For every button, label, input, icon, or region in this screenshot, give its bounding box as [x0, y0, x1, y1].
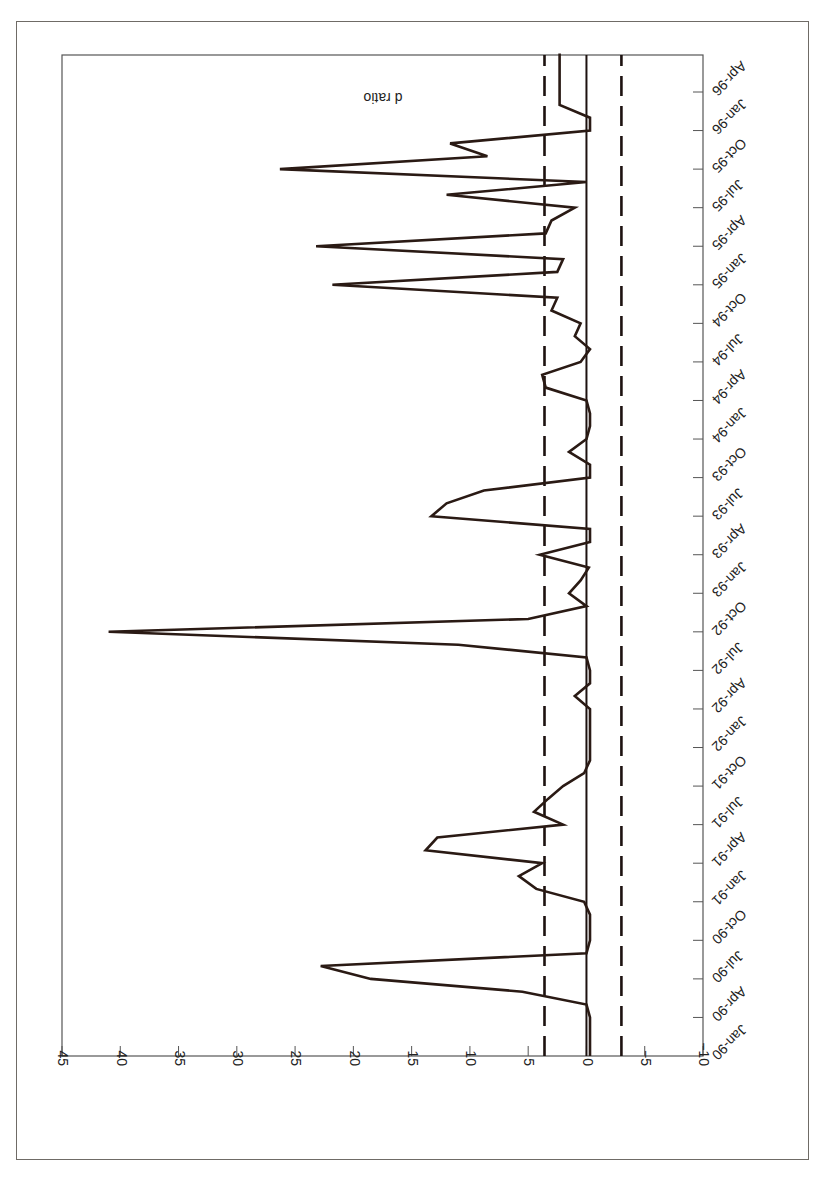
date-tick-label: Oct-93 [709, 444, 750, 485]
value-tick-label: 45 [55, 1050, 71, 1066]
date-tick-label: Apr-94 [709, 367, 750, 408]
date-tick-label: Apr-93 [709, 521, 750, 562]
value-tick-label: 20 [347, 1050, 363, 1066]
date-tick-label: Jul-95 [709, 177, 747, 215]
date-tick-label: Jan-93 [709, 559, 751, 601]
date-tick-label: Apr-92 [709, 675, 750, 716]
date-tick-label: Jan-96 [709, 96, 751, 138]
y-axis-title: d ratio [363, 90, 402, 106]
value-axis: 454035302520151050−5−10 [55, 1042, 712, 1066]
value-tick-label: 35 [172, 1050, 188, 1066]
date-tick-label: Jul-94 [709, 331, 747, 369]
date-tick-label: Jan-92 [709, 713, 751, 755]
d-ratio-line-chart: 454035302520151050−5−10 Jan-90Apr-90Jul-… [0, 0, 817, 1183]
date-tick-label: Jul-90 [709, 948, 747, 986]
date-tick-label: Apr-96 [709, 58, 750, 99]
plot-area [62, 55, 703, 1056]
date-tick-label: Jan-90 [709, 1022, 751, 1064]
date-tick-label: Jul-92 [709, 639, 747, 677]
date-tick-label: Oct-94 [709, 290, 750, 331]
date-axis: Jan-90Apr-90Jul-90Oct-90Jan-91Apr-91Jul-… [693, 58, 750, 1063]
value-tick-label: 15 [405, 1050, 421, 1066]
date-tick-label: Apr-91 [709, 829, 750, 870]
value-tick-label: −10 [696, 1042, 712, 1066]
date-tick-label: Jan-95 [709, 250, 751, 292]
date-tick-label: Apr-90 [709, 984, 750, 1025]
d-ratio-series-line [109, 53, 590, 1056]
date-tick-label: Jul-91 [709, 794, 747, 832]
date-tick-label: Jan-91 [709, 867, 751, 909]
value-tick-label: 0 [580, 1058, 596, 1066]
value-tick-label: 10 [463, 1050, 479, 1066]
value-tick-label: 40 [114, 1050, 130, 1066]
date-tick-label: Oct-95 [709, 135, 750, 176]
date-tick-label: Oct-92 [709, 598, 750, 639]
value-tick-label: −5 [638, 1050, 654, 1066]
date-tick-label: Jul-93 [709, 485, 747, 523]
value-tick-label: 25 [288, 1050, 304, 1066]
date-tick-label: Jan-94 [709, 405, 751, 447]
value-tick-label: 30 [230, 1050, 246, 1066]
date-tick-label: Apr-95 [709, 212, 750, 253]
date-tick-label: Oct-90 [709, 906, 750, 947]
value-tick-label: 5 [521, 1058, 537, 1066]
date-tick-label: Oct-91 [709, 752, 750, 793]
